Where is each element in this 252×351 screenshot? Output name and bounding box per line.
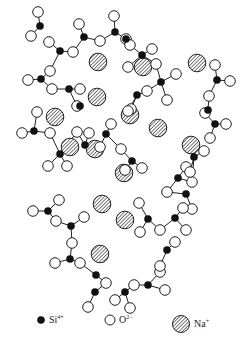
silicon-atom <box>56 47 64 55</box>
silicon-atom <box>76 102 84 110</box>
oxygen-atom <box>72 127 83 138</box>
oxygen-atom <box>162 187 173 198</box>
oxygen-atom <box>199 146 210 157</box>
silicon-atom <box>121 288 129 296</box>
silicon-atom <box>204 106 212 114</box>
oxygen-atom <box>17 128 28 139</box>
oxygen-atom <box>204 91 215 102</box>
oxygen-atom <box>181 225 192 236</box>
oxygen-atom <box>205 133 216 144</box>
legend: Si4+ O2− Na+ <box>0 314 252 334</box>
silicon-atom <box>30 127 38 135</box>
sodium-ion <box>89 53 107 71</box>
na-icon <box>171 314 191 334</box>
oxygen-atom <box>109 11 120 22</box>
oxygen-atom <box>95 36 106 47</box>
oxygen-atom <box>134 198 145 209</box>
sodium-ion <box>116 211 134 229</box>
oxygen-atom <box>170 237 181 248</box>
oxygen-atom <box>178 203 189 214</box>
oxygen-atom <box>79 212 90 223</box>
oxygen-atom <box>187 177 198 188</box>
oxygen-atom <box>33 7 44 18</box>
oxygen-atom <box>45 128 56 139</box>
legend-item-o: O2− <box>104 314 133 326</box>
silicon-atom <box>122 35 130 43</box>
silicon-atom <box>44 207 52 215</box>
silicon-atom <box>171 214 179 222</box>
sodium-ion <box>88 88 106 106</box>
oxygen-atom <box>47 84 58 95</box>
oxygen-atom <box>151 59 162 70</box>
oxygen-atom <box>101 278 112 289</box>
silicon-atom <box>81 141 89 149</box>
si-icon <box>36 315 46 325</box>
oxygen-atom <box>155 225 166 236</box>
oxygen-atom <box>26 31 37 42</box>
oxygen-atom <box>75 84 86 95</box>
oxygen-atom <box>225 76 236 87</box>
silicon-atom <box>128 157 136 165</box>
silicon-atom <box>80 33 88 41</box>
oxygen-atom <box>74 19 85 30</box>
sodium-ion <box>61 138 79 156</box>
sodium-ion <box>149 119 167 137</box>
oxygen-atom <box>83 302 94 313</box>
oxygen-atom <box>142 86 153 97</box>
sodium-ion <box>93 195 111 213</box>
sodium-ion <box>188 54 206 72</box>
oxygen-atom <box>95 142 106 153</box>
oxygen-atom <box>210 60 221 71</box>
glass-structure-diagram <box>0 0 252 351</box>
oxygen-atom <box>171 69 182 80</box>
oxygen-atom <box>50 258 61 269</box>
legend-item-na: Na+ <box>171 314 209 334</box>
silicon-atom <box>92 271 100 279</box>
oxygen-atom <box>129 280 140 291</box>
oxygen-atom <box>106 119 117 130</box>
silicon-atom <box>211 120 219 128</box>
oxygen-atom <box>185 167 196 178</box>
oxygen-atom <box>62 161 73 172</box>
silicon-atom <box>67 222 75 230</box>
legend-label-na: Na+ <box>194 318 209 329</box>
oxygen-atom <box>28 206 39 217</box>
oxygen-atom <box>125 303 136 314</box>
silicon-atom <box>157 78 165 86</box>
oxygen-atom <box>110 295 121 306</box>
silicon-atom <box>133 91 141 99</box>
legend-label-si: Si4+ <box>49 314 64 325</box>
sodium-ion <box>182 136 200 154</box>
oxygen-atom <box>155 261 166 272</box>
oxygen-atom <box>23 75 34 86</box>
oxygen-atom <box>123 106 134 117</box>
oxygen-atom <box>32 107 43 118</box>
silicon-atom <box>91 288 99 296</box>
oxygen-atom <box>44 37 55 48</box>
oxygen-atom <box>160 285 171 296</box>
silicon-atom <box>144 281 152 289</box>
oxygen-atom <box>75 258 86 269</box>
sodium-ion <box>134 58 152 76</box>
oxygen-atom <box>137 163 148 174</box>
silicon-atom <box>213 76 221 84</box>
silicon-atom <box>37 75 45 83</box>
silicon-atom <box>66 255 74 263</box>
silicon-atom <box>163 246 171 254</box>
silicon-atom <box>36 22 44 30</box>
silicon-atom <box>65 85 73 93</box>
oxygen-atom <box>116 144 127 155</box>
oxygen-atom <box>221 119 232 130</box>
oxygen-atom <box>67 238 78 249</box>
sodium-ion <box>91 245 109 263</box>
oxygen-atom <box>120 165 131 176</box>
silicon-atom <box>144 215 152 223</box>
oxygen-atom <box>162 95 173 106</box>
silicon-atom <box>111 28 119 36</box>
silicon-atom <box>190 153 198 161</box>
silicon-atom <box>102 130 110 138</box>
silicon-atom <box>182 190 190 198</box>
oxygen-atom <box>43 161 54 172</box>
oxygen-atom <box>68 47 79 58</box>
oxygen-atoms <box>17 7 236 314</box>
